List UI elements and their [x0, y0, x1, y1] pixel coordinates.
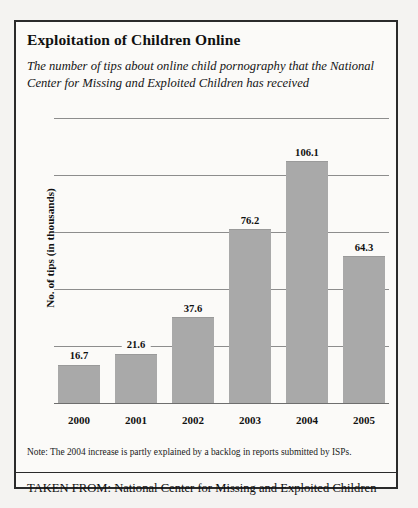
x-axis-tick-labels: 200020012002200320042005: [54, 408, 389, 432]
figure-note: Note: The 2004 increase is partly explai…: [27, 446, 385, 458]
bar-series: 16.721.637.676.2106.164.3: [54, 119, 389, 404]
figure-source: TAKEN FROM: National Center for Missing …: [27, 480, 385, 496]
bar[interactable]: [115, 354, 157, 404]
x-axis-tick-label: 2003: [229, 414, 271, 426]
bar-column[interactable]: 37.6: [172, 119, 214, 404]
bar-chart: No. of tips (in thousands) 16.721.637.67…: [27, 114, 389, 432]
bar-column[interactable]: 16.7: [58, 119, 100, 404]
bar[interactable]: [286, 161, 328, 404]
bar[interactable]: [172, 317, 214, 404]
figure-content: Exploitation of Children Online The numb…: [16, 22, 396, 487]
x-axis-line: [54, 403, 389, 405]
bar-value-label: 106.1: [290, 148, 324, 159]
x-axis-tick-label: 2001: [115, 414, 157, 426]
x-axis-tick-label: 2000: [58, 414, 100, 426]
bar[interactable]: [58, 365, 100, 404]
figure-subtitle: The number of tips about online child po…: [27, 58, 385, 94]
figure-title: Exploitation of Children Online: [27, 31, 385, 50]
bar-column[interactable]: 21.6: [115, 119, 157, 404]
bar-value-label: 76.2: [236, 216, 265, 227]
bar-column[interactable]: 106.1: [286, 119, 328, 404]
footer-divider: [16, 472, 396, 473]
plot-area: 16.721.637.676.2106.164.3: [54, 119, 389, 404]
bar-value-label: 21.6: [122, 340, 151, 351]
bar-column[interactable]: 76.2: [229, 119, 271, 404]
bar[interactable]: [229, 229, 271, 404]
bar[interactable]: [343, 256, 385, 404]
x-axis-tick-label: 2005: [343, 414, 385, 426]
bar-value-label: 64.3: [350, 243, 379, 254]
bar-column[interactable]: 64.3: [343, 119, 385, 404]
x-axis-tick-label: 2002: [172, 414, 214, 426]
bar-value-label: 37.6: [179, 304, 208, 315]
bar-value-label: 16.7: [65, 351, 94, 362]
figure-card: Exploitation of Children Online The numb…: [14, 20, 398, 489]
x-axis-tick-label: 2004: [286, 414, 328, 426]
